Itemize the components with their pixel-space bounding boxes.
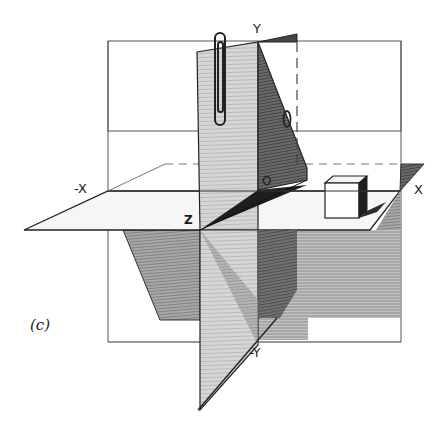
lower-left-shaded-plane xyxy=(123,230,200,320)
axis-label-neg-x: -X xyxy=(74,182,87,195)
figure-caption: (c) xyxy=(30,318,50,333)
axis-label-y: Y xyxy=(253,22,261,35)
axis-label-neg-y: -Y xyxy=(250,347,260,359)
axis-label-x: X xyxy=(414,183,423,196)
axis-label-z: Z xyxy=(184,214,193,226)
three-planes-diagram xyxy=(0,0,447,436)
axis-label-origin: O xyxy=(262,175,271,187)
